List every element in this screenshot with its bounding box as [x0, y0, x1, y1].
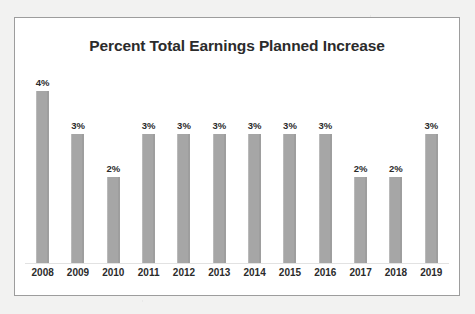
- bar-column-2018: 2%: [378, 68, 413, 263]
- bar-2008: [36, 91, 49, 263]
- bar-column-2019: 3%: [414, 68, 449, 263]
- chart-title: Percent Total Earnings Planned Increase: [15, 37, 459, 55]
- bar-2010: [107, 177, 120, 263]
- bar-column-2016: 3%: [308, 68, 343, 263]
- bar-value-label: 3%: [248, 121, 262, 131]
- x-tick-2011: 2011: [131, 267, 166, 279]
- bar-column-2012: 3%: [166, 68, 201, 263]
- x-tick-2018: 2018: [378, 267, 413, 279]
- bar-2017: [354, 177, 367, 263]
- bar-column-2009: 3%: [60, 68, 95, 263]
- bar-column-2013: 3%: [202, 68, 237, 263]
- bar-column-2011: 3%: [131, 68, 166, 263]
- bar-value-label: 3%: [424, 121, 438, 131]
- x-axis-tick-labels: 2008 2009 2010 2011 2012 2013 2014 2015 …: [25, 267, 449, 279]
- x-tick-2015: 2015: [272, 267, 307, 279]
- bar-value-label: 2%: [354, 164, 368, 174]
- bar-column-2017: 2%: [343, 68, 378, 263]
- x-axis-line: [25, 263, 449, 264]
- x-tick-2008: 2008: [25, 267, 60, 279]
- bar-2018: [389, 177, 402, 263]
- bar-2013: [213, 134, 226, 263]
- x-tick-2012: 2012: [166, 267, 201, 279]
- bar-value-label: 3%: [318, 121, 332, 131]
- plot-area: 4% 3% 2% 3% 3% 3%: [25, 68, 449, 285]
- bar-column-2010: 2%: [96, 68, 131, 263]
- bar-value-label: 2%: [106, 164, 120, 174]
- x-tick-2009: 2009: [60, 267, 95, 279]
- bar-value-label: 3%: [283, 121, 297, 131]
- bar-column-2014: 3%: [237, 68, 272, 263]
- bar-2009: [71, 134, 84, 263]
- bar-column-2015: 3%: [272, 68, 307, 263]
- x-tick-2013: 2013: [202, 267, 237, 279]
- bar-2015: [283, 134, 296, 263]
- x-tick-2010: 2010: [96, 267, 131, 279]
- x-tick-2016: 2016: [308, 267, 343, 279]
- bar-2019: [425, 134, 438, 263]
- bar-series: 4% 3% 2% 3% 3% 3%: [25, 68, 449, 263]
- bar-2012: [177, 134, 190, 263]
- bar-value-label: 2%: [389, 164, 403, 174]
- x-tick-2014: 2014: [237, 267, 272, 279]
- bar-value-label: 3%: [142, 121, 156, 131]
- x-tick-2017: 2017: [343, 267, 378, 279]
- bar-2016: [319, 134, 332, 263]
- bar-value-label: 4%: [36, 78, 50, 88]
- bar-value-label: 3%: [177, 121, 191, 131]
- bar-value-label: 3%: [71, 121, 85, 131]
- bar-2011: [142, 134, 155, 263]
- bar-value-label: 3%: [212, 121, 226, 131]
- chart-frame: Percent Total Earnings Planned Increase …: [14, 17, 460, 296]
- bar-column-2008: 4%: [25, 68, 60, 263]
- x-tick-2019: 2019: [414, 267, 449, 279]
- bar-2014: [248, 134, 261, 263]
